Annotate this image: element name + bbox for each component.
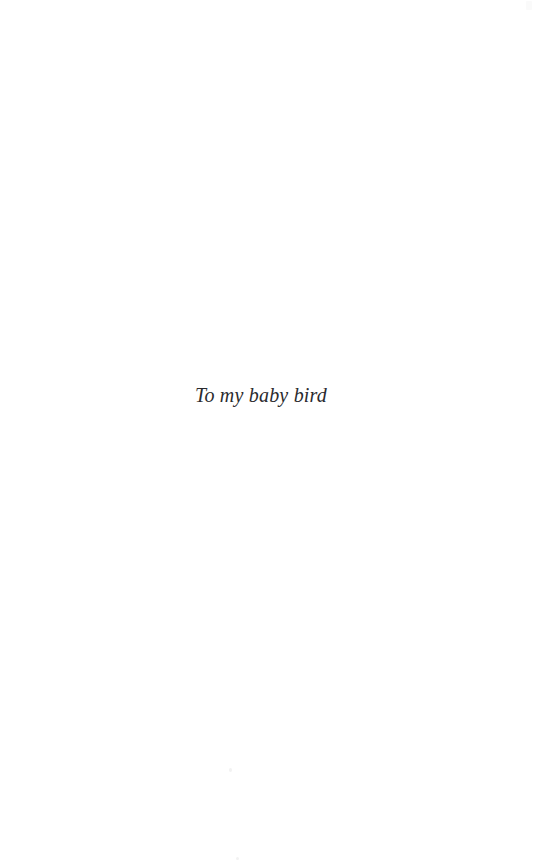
scan-edge-artifact [526,1,532,10]
page-text-block: To my baby bird [0,0,522,864]
book-page: To my baby bird [0,0,534,864]
dedication-text: To my baby bird [0,382,522,408]
